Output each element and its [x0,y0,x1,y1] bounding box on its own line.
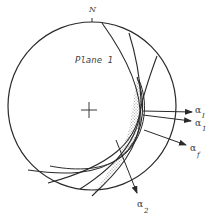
north-label: N [88,5,97,14]
stereonet-diagram: N Plane 1 α I α 1 α f α 2 [0,0,211,220]
arrow-alpha-I [143,111,192,112]
plane-1-label: Plane 1 [75,55,113,65]
alpha-f-subscript: f [196,151,201,159]
alpha-I-subscript: I [201,112,205,120]
alpha-f-symbol: α [190,143,196,153]
alpha-1-subscript: 1 [202,125,206,133]
alpha-I-symbol: α [195,105,201,115]
alpha-2-subscript: 2 [143,207,149,215]
primitive-circle [8,22,176,190]
alpha-2-symbol: α [137,199,143,209]
arrow-alpha-f [144,130,186,145]
alpha-1-symbol: α [195,118,201,128]
plane-arc-3 [48,56,157,183]
arrow-alpha-1 [143,115,191,121]
